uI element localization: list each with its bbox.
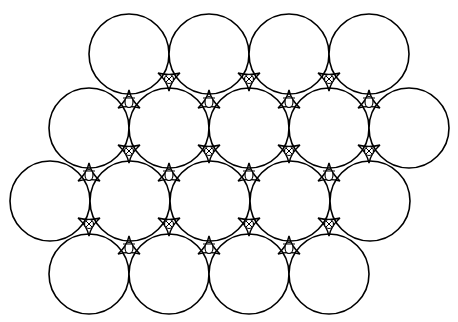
- large-circle: [90, 161, 170, 241]
- large-circles-group: [10, 14, 449, 314]
- large-circle: [289, 234, 369, 314]
- large-circle: [329, 14, 409, 94]
- large-circle: [209, 88, 289, 168]
- large-circle: [289, 88, 369, 168]
- large-circle: [170, 161, 250, 241]
- large-circle: [49, 88, 129, 168]
- large-circle: [10, 161, 90, 241]
- packing-figure: [0, 0, 458, 322]
- large-circle: [209, 234, 289, 314]
- large-circle: [369, 88, 449, 168]
- large-circle: [250, 161, 330, 241]
- crossed-circle-icon: [118, 145, 140, 163]
- circle-packing-diagram: [0, 0, 458, 322]
- crossed-circle-icon: [198, 145, 220, 163]
- large-circle: [330, 161, 410, 241]
- large-circle: [169, 14, 249, 94]
- large-circle: [249, 14, 329, 94]
- large-circle: [129, 88, 209, 168]
- crossed-circle-icon: [358, 145, 380, 163]
- large-circle: [49, 234, 129, 314]
- large-circle: [89, 14, 169, 94]
- crossed-circle-icon: [278, 145, 300, 163]
- large-circle: [129, 234, 209, 314]
